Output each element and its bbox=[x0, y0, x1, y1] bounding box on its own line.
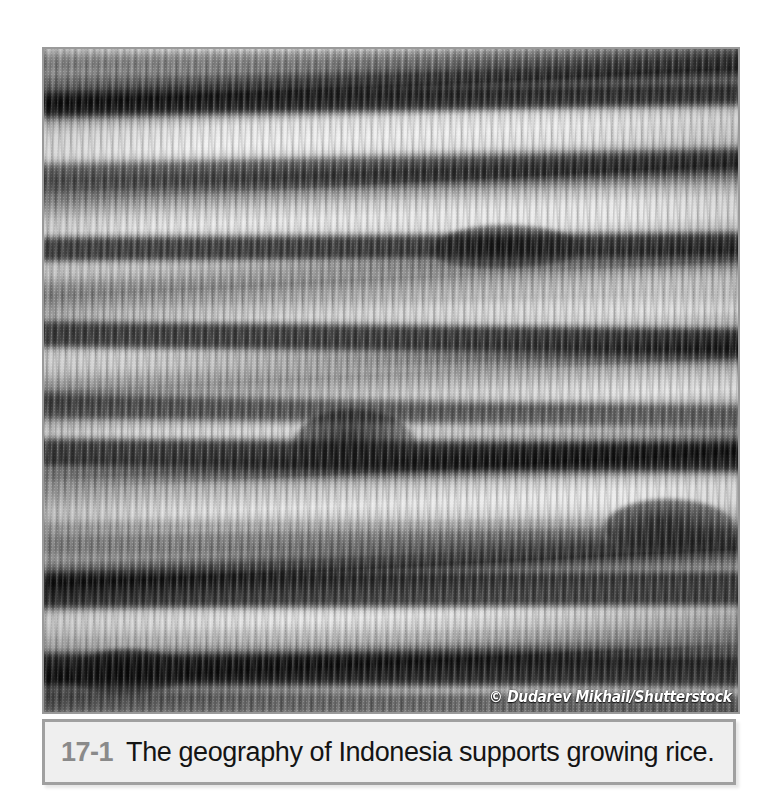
figure-block: © Dudarev Mikhail/Shutterstock 17-1 The … bbox=[42, 47, 740, 791]
figure-caption-text: The geography of Indonesia supports grow… bbox=[126, 737, 714, 768]
caption-content: 17-1 The geography of Indonesia supports… bbox=[45, 737, 714, 768]
figure-caption-box: 17-1 The geography of Indonesia supports… bbox=[42, 719, 736, 785]
rice-terrace-photo bbox=[44, 49, 738, 712]
page-root: © Dudarev Mikhail/Shutterstock 17-1 The … bbox=[0, 0, 775, 802]
figure-number: 17-1 bbox=[61, 737, 113, 768]
figure-photo: © Dudarev Mikhail/Shutterstock bbox=[42, 47, 740, 714]
photo-vignette bbox=[44, 49, 738, 712]
photo-credit: © Dudarev Mikhail/Shutterstock bbox=[489, 688, 732, 706]
